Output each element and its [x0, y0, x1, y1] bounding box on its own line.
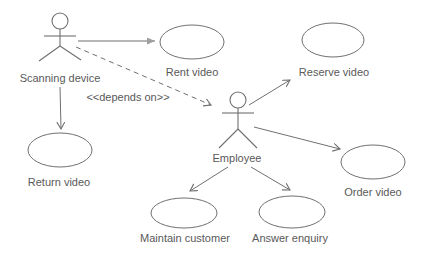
use-case-rent-video-label: Rent video	[166, 66, 219, 78]
use-case-reserve-video: Reserve video	[299, 23, 369, 78]
use-case-order-video: Order video	[341, 145, 405, 198]
use-case-diagram: <<depends on>> Scanning device Employee …	[0, 0, 425, 255]
use-case-maintain-customer: Maintain customer	[140, 198, 230, 244]
use-case-answer-enquiry: Answer enquiry	[252, 196, 328, 244]
edge-scanning-to-return	[60, 87, 61, 129]
use-case-ellipse	[160, 25, 224, 59]
use-case-return-video: Return video	[28, 133, 92, 188]
use-case-rent-video: Rent video	[160, 25, 224, 78]
use-case-ellipse	[341, 145, 405, 179]
use-case-reserve-video-label: Reserve video	[299, 66, 369, 78]
edge-employee-to-reserve	[249, 80, 290, 105]
actor-left-leg-icon	[39, 46, 60, 61]
use-case-order-video-label: Order video	[344, 186, 401, 198]
actor-scanning-device-label: Scanning device	[20, 72, 101, 84]
use-case-ellipse	[259, 196, 325, 228]
actor-scanning-device: Scanning device	[20, 13, 101, 84]
actor-right-leg-icon	[238, 129, 257, 148]
actor-head-icon	[230, 92, 246, 108]
actor-employee-label: Employee	[213, 152, 262, 164]
actor-head-icon	[52, 13, 68, 29]
actor-employee: Employee	[213, 92, 262, 164]
relationships: <<depends on>>	[60, 41, 340, 191]
use-case-ellipse	[302, 23, 364, 57]
dependency-stereotype-label: <<depends on>>	[86, 91, 169, 103]
use-case-return-video-label: Return video	[28, 176, 90, 188]
edge-employee-to-answer	[251, 167, 290, 190]
use-case-maintain-customer-label: Maintain customer	[140, 232, 230, 244]
use-case-ellipse	[151, 198, 217, 228]
use-case-answer-enquiry-label: Answer enquiry	[252, 232, 328, 244]
edge-employee-to-order	[254, 127, 340, 149]
use-case-ellipse	[28, 133, 92, 167]
actor-left-leg-icon	[219, 129, 238, 148]
edge-employee-to-maintain	[190, 167, 228, 191]
